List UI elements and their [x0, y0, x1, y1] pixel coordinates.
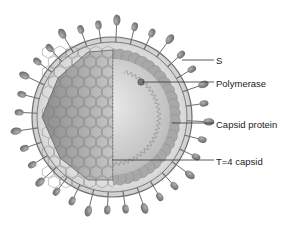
virus-diagram: S Polymerase Capsid protein T=4 capsid — [0, 0, 293, 232]
label-t4-capsid: T=4 capsid — [216, 156, 263, 167]
virus-illustration — [0, 0, 293, 232]
label-polymerase: Polymerase — [216, 78, 266, 89]
label-capsid-protein: Capsid protein — [216, 119, 277, 130]
label-s: S — [216, 55, 222, 66]
